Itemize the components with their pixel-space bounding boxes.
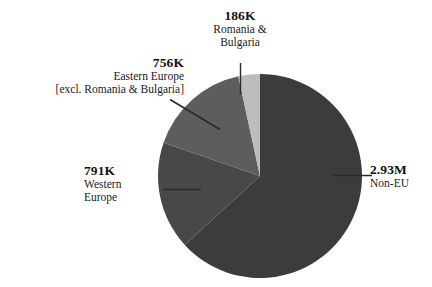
pie-chart-figure: 186K Romania & Bulgaria 756K Eastern Eur…: [0, 0, 432, 287]
pie-slices: [158, 74, 362, 278]
pie-label-romania-bulgaria: 186K Romania & Bulgaria: [180, 8, 300, 49]
pie-label-eastern-europe-value: 756K: [6, 55, 184, 70]
pie-label-western-europe-line1: Western: [84, 178, 162, 191]
pie-label-non-eu-line1: Non-EU: [370, 177, 430, 190]
pie-label-romania-bulgaria-value: 186K: [180, 8, 300, 23]
pie-label-eastern-europe-line1: Eastern Europe: [6, 70, 184, 83]
pie-label-non-eu-value: 2.93M: [370, 162, 430, 177]
pie-label-western-europe: 791K Western Europe: [84, 163, 162, 204]
pie-label-western-europe-line2: Europe: [84, 191, 162, 204]
pie-label-western-europe-value: 791K: [84, 163, 162, 178]
pie-label-eastern-europe-line2: [excl. Romania & Bulgaria]: [6, 83, 184, 96]
pie-label-eastern-europe: 756K Eastern Europe [excl. Romania & Bul…: [6, 55, 184, 96]
pie-label-romania-bulgaria-line1: Romania &: [180, 23, 300, 36]
pie-label-non-eu: 2.93M Non-EU: [370, 162, 430, 190]
pie-label-romania-bulgaria-line2: Bulgaria: [180, 36, 300, 49]
